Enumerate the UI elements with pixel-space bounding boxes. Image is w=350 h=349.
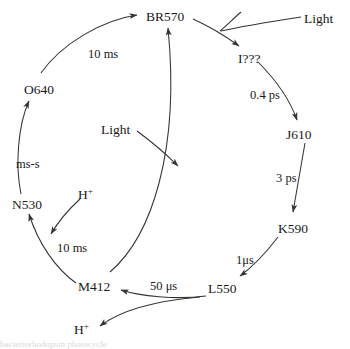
arrow-proton-uptake	[51, 199, 80, 234]
photocycle-diagram: BR570 I??? J610 K590 L550 M412 N530 O640…	[0, 0, 350, 349]
light-label-top: Light	[304, 12, 333, 26]
arrow-o640-to-br570	[41, 15, 137, 73]
node-label-i: I???	[238, 52, 260, 66]
proton-release-label: H+	[74, 323, 89, 337]
photocycle-arrow-layer	[0, 0, 350, 349]
rate-label-j610-to-k590: 3 ps	[276, 172, 297, 185]
proton-release-charge: +	[84, 321, 89, 331]
proton-uptake-charge: +	[88, 186, 93, 196]
node-label-o640: O640	[24, 83, 54, 97]
rate-label-br570-to-o640: 10 ms	[88, 48, 118, 61]
arrow-light-top-tick	[220, 12, 241, 31]
node-label-k590: K590	[278, 222, 308, 236]
node-label-m412: M412	[78, 280, 110, 294]
rate-label-m412-to-n530: 10 ms	[57, 242, 87, 255]
rate-label-k590-to-l550: 1μs	[236, 254, 254, 267]
arrow-light-center	[137, 131, 178, 166]
arrow-n530-to-o640	[18, 101, 29, 194]
arrow-m412-to-br570	[110, 28, 171, 272]
proton-uptake-label: H+	[78, 188, 93, 202]
light-label-center: Light	[101, 123, 130, 137]
node-label-l550: L550	[208, 282, 237, 296]
node-label-br570: BR570	[146, 10, 184, 24]
cropped-caption: bacteriorhodopsin photocycle	[0, 339, 350, 349]
rate-label-n530-to-o640: ms-s	[16, 158, 40, 171]
proton-uptake-symbol: H	[78, 187, 88, 202]
node-label-j610: J610	[286, 128, 312, 142]
rate-label-l550-to-m412: 50 μs	[150, 280, 177, 293]
arrow-proton-release	[100, 297, 200, 326]
arrow-br570-to-i	[193, 19, 239, 46]
rate-label-i-to-j610: 0.4 ps	[250, 89, 280, 102]
node-label-n530: N530	[12, 198, 42, 212]
proton-release-symbol: H	[74, 322, 84, 337]
